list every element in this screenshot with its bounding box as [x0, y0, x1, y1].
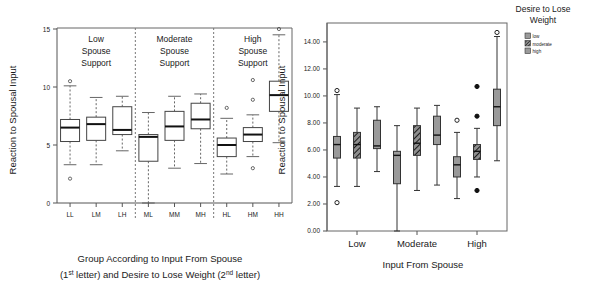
- caption-part-a: (1: [60, 269, 68, 280]
- box-group: [334, 88, 341, 204]
- right-boxplot-panel: 0.002.004.006.008.0010.0012.0014.00 LowM…: [275, 0, 613, 295]
- outlier-point: [225, 106, 228, 109]
- outlier-point: [68, 80, 71, 83]
- right-box-series: [334, 30, 501, 231]
- box-rect: [454, 157, 461, 177]
- y-tick-label: 8.00: [307, 119, 320, 126]
- caption-part-c: letter): [233, 269, 260, 280]
- caption-part-b: letter) and Desire to Lose Weight (2: [73, 269, 225, 280]
- outlier-point: [495, 30, 499, 34]
- two-panel-boxplot-figure: 051015 LLLMLHMLMMMHHLHMHH LowSpouseSuppo…: [0, 0, 613, 295]
- right-legend: lowmoderatehigh: [525, 33, 552, 54]
- left-x-axis-title-line2: (1st letter) and Desire to Lose Weight (…: [60, 269, 260, 280]
- group-label-line: Spouse: [238, 46, 267, 56]
- legend-item-label: moderate: [533, 42, 553, 47]
- left-panel-svg: 051015 LLLMLHMLMMMHHLHMHH LowSpouseSuppo…: [0, 0, 305, 295]
- box-rect: [434, 116, 441, 144]
- y-tick-label: 0.00: [307, 227, 320, 234]
- legend-title-line1: Desire to Lose: [516, 4, 571, 14]
- group-label-line: Moderate: [157, 34, 193, 44]
- y-tick-label: 2.00: [307, 200, 320, 207]
- outlier-point: [68, 177, 71, 180]
- box-group: [374, 107, 381, 172]
- box-rect: [61, 119, 80, 141]
- y-tick-label: 15: [43, 26, 51, 33]
- x-tick-label: HL: [223, 211, 232, 218]
- box-group: [217, 106, 236, 174]
- right-panel-svg: 0.002.004.006.008.0010.0012.0014.00 LowM…: [275, 0, 613, 295]
- box-rect: [139, 135, 158, 162]
- group-label-line: High: [244, 34, 262, 44]
- outlier-point: [335, 88, 339, 92]
- legend-item-label: low: [533, 34, 541, 39]
- left-x-axis-title-line1: Group According to Input From Spouse: [78, 253, 243, 264]
- box-group: [191, 94, 210, 164]
- left-boxplot-panel: 051015 LLLMLHMLMMMHHLHMHH LowSpouseSuppo…: [0, 0, 305, 295]
- box-rect: [217, 138, 236, 157]
- box-group: [434, 105, 441, 185]
- x-tick-label: MH: [196, 211, 206, 218]
- outlier-point: [475, 114, 479, 118]
- box-rect: [374, 120, 381, 148]
- outlier-point: [335, 201, 339, 205]
- outlier-point: [475, 84, 479, 88]
- outlier-point: [475, 188, 479, 192]
- outlier-point: [251, 98, 254, 101]
- box-group: [454, 118, 461, 198]
- x-tick-label: Moderate: [397, 238, 437, 249]
- x-tick-label: LM: [92, 211, 101, 218]
- box-group: [165, 96, 184, 168]
- left-group-labels: LowSpouseSupportModerateSpouseSupportHig…: [81, 34, 268, 68]
- x-tick-label: ML: [144, 211, 153, 218]
- y-tick-label: 14.00: [304, 38, 321, 45]
- outlier-point: [251, 78, 254, 81]
- box-group: [394, 126, 401, 231]
- group-label-line: Support: [160, 58, 190, 68]
- right-y-axis: 0.002.004.006.008.0010.0012.0014.00: [304, 23, 327, 234]
- legend-item-label: high: [533, 49, 542, 54]
- box-group: [414, 108, 421, 190]
- right-y-axis-title: Reaction to Spousal Input: [276, 65, 287, 174]
- group-label-line: Support: [238, 58, 268, 68]
- box-group: [494, 30, 501, 160]
- left-x-axis: LLLMLHMLMMMHHLHMHH: [57, 203, 292, 218]
- right-x-axis-title: Input From Spouse: [383, 259, 464, 270]
- box-group: [87, 97, 106, 164]
- x-tick-label: MM: [169, 211, 180, 218]
- y-tick-label: 5: [46, 142, 50, 149]
- y-tick-label: 10: [43, 84, 51, 91]
- box-group: [139, 113, 158, 203]
- y-tick-label: 6.00: [307, 146, 320, 153]
- box-rect: [191, 103, 210, 129]
- box-group: [474, 84, 481, 192]
- legend-title-line2: Weight: [530, 15, 557, 25]
- outlier-point: [251, 167, 254, 170]
- box-rect: [394, 151, 401, 183]
- box-rect: [87, 117, 106, 140]
- right-x-axis: LowModerateHigh: [348, 231, 486, 249]
- left-y-axis-title: Reaction to Spousal Input: [7, 65, 18, 174]
- y-tick-label: 10.00: [304, 92, 321, 99]
- box-group: [113, 96, 132, 151]
- y-tick-label: 12.00: [304, 65, 321, 72]
- x-tick-label: High: [467, 238, 487, 249]
- group-label-line: Spouse: [82, 46, 111, 56]
- y-tick-label: 4.00: [307, 173, 320, 180]
- outlier-point: [455, 118, 459, 122]
- box-group: [354, 108, 361, 186]
- group-label-line: Support: [81, 58, 111, 68]
- x-tick-label: HM: [248, 211, 258, 218]
- legend-swatch: [525, 41, 531, 47]
- group-label-line: Low: [88, 34, 104, 44]
- x-tick-label: LH: [118, 211, 127, 218]
- box-group: [243, 78, 262, 169]
- group-label-line: Spouse: [160, 46, 189, 56]
- x-tick-label: Low: [348, 238, 366, 249]
- left-y-axis: 051015: [43, 26, 57, 207]
- legend-swatch: [525, 48, 531, 54]
- box-group: [61, 80, 80, 181]
- y-tick-label: 0: [46, 200, 50, 207]
- box-rect: [334, 136, 341, 158]
- legend-swatch: [525, 33, 531, 39]
- box-rect: [414, 126, 421, 156]
